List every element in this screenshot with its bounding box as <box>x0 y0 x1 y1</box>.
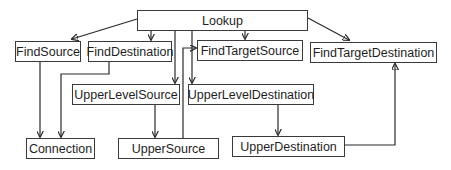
node-label: FindDestination <box>87 45 174 59</box>
node-finddestination: FindDestination <box>88 41 172 62</box>
node-label: Lookup <box>202 14 243 28</box>
edge-lookup-findsource <box>72 19 137 39</box>
node-label: FindSource <box>16 45 80 59</box>
edge-lookup-findtargetdestination <box>308 18 349 40</box>
node-label: Connection <box>29 142 92 156</box>
node-label: UpperDestination <box>240 140 337 154</box>
node-label: UpperSource <box>132 142 206 156</box>
node-label: FindTargetSource <box>201 44 300 58</box>
node-findsource: FindSource <box>15 41 81 62</box>
diagram-canvas: Lookup FindSource FindDestination FindTa… <box>0 0 451 170</box>
node-connection: Connection <box>26 138 95 159</box>
node-lookup: Lookup <box>137 10 308 31</box>
node-findtargetsource: FindTargetSource <box>197 40 303 61</box>
node-upperdestination: UpperDestination <box>232 136 345 157</box>
node-uppersource: UpperSource <box>118 138 219 159</box>
node-label: UpperLevelDestination <box>188 88 314 102</box>
node-findtargetdestination: FindTargetDestination <box>310 42 437 63</box>
node-label: FindTargetDestination <box>313 46 435 60</box>
node-upperleveldestination: UpperLevelDestination <box>188 84 314 105</box>
node-label: UpperLevelSource <box>74 88 178 102</box>
edge-upperdestination-findtargetdestination <box>345 64 395 145</box>
node-upperlevelsource: UpperLevelSource <box>72 84 180 105</box>
